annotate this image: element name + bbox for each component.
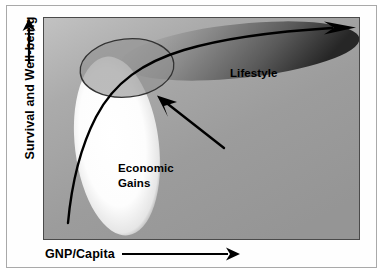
y-axis: Survival and Well-being bbox=[14, 17, 44, 240]
plot-panel: Lifestyle Economic Gains bbox=[43, 17, 360, 240]
x-axis-label: GNP/Capita bbox=[45, 247, 115, 261]
y-axis-label: Survival and Well-being bbox=[15, 10, 45, 166]
x-axis-arrow-icon bbox=[122, 247, 242, 261]
x-axis: GNP/Capita bbox=[45, 243, 285, 265]
economic-gains-label: Economic Gains bbox=[118, 161, 174, 191]
lifestyle-label: Lifestyle bbox=[230, 66, 278, 81]
figure-root: Lifestyle Economic Gains Survival and We… bbox=[0, 0, 384, 276]
plot-panel-graphics bbox=[44, 18, 359, 239]
